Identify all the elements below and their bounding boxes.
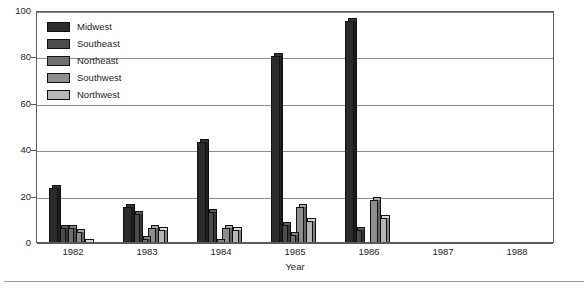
bar-side-northwest-1986 [387, 215, 390, 242]
bar-side-midwest-1984 [206, 139, 209, 242]
bottom-divider [4, 281, 584, 282]
legend-item-northwest[interactable]: Northwest [47, 87, 167, 103]
x-tick-label-1987: 1987 [432, 246, 453, 257]
y-tick-label-0: 0 [0, 238, 31, 248]
x-tick-label-1982: 1982 [62, 246, 83, 257]
x-tick-label-1986: 1986 [358, 246, 379, 257]
bar-midwest-1984[interactable] [197, 142, 205, 242]
bar-southwest-1986[interactable] [370, 200, 378, 242]
y-tick-label-20: 20 [0, 192, 31, 202]
legend-item-midwest[interactable]: Midwest [47, 19, 167, 35]
legend-label-northeast: Northeast [77, 56, 118, 66]
bar-side-midwest-1982 [58, 185, 61, 242]
bar-midwest-1985[interactable] [271, 56, 279, 242]
bar-side-midwest-1985 [280, 53, 283, 242]
bar-side-midwest-1983 [132, 204, 135, 242]
bar-side-southeast-1984 [214, 209, 217, 242]
bar-side-midwest-1986 [354, 18, 357, 242]
y-tick-label-80: 80 [0, 52, 31, 62]
x-axis: 1982198319841985198619871988 [36, 246, 554, 262]
x-axis-title: Year [36, 261, 554, 272]
legend-swatch-southwest [47, 73, 70, 83]
legend-label-southeast: Southeast [77, 39, 120, 49]
bar-side-northwest-1985 [313, 218, 316, 242]
y-tick-label-100: 100 [0, 6, 31, 16]
x-tick-label-1983: 1983 [136, 246, 157, 257]
legend-swatch-northeast [47, 56, 70, 66]
x-tick-label-1988: 1988 [506, 246, 527, 257]
bar-side-southwest-1986 [378, 197, 381, 242]
legend-label-midwest: Midwest [77, 22, 112, 32]
legend-swatch-midwest [47, 22, 70, 32]
legend-item-southwest[interactable]: Southwest [47, 70, 167, 86]
x-tick-label-1985: 1985 [284, 246, 305, 257]
gridline-0 [37, 243, 553, 244]
bar-midwest-1983[interactable] [123, 207, 131, 242]
x-tick-label-1984: 1984 [210, 246, 231, 257]
legend-swatch-southeast [47, 39, 70, 49]
bar-side-southwest-1985 [304, 204, 307, 242]
legend-swatch-northwest [47, 90, 70, 100]
bar-midwest-1982[interactable] [49, 188, 57, 242]
legend-label-northwest: Northwest [77, 90, 120, 100]
legend-item-southeast[interactable]: Southeast [47, 36, 167, 52]
y-tick-label-60: 60 [0, 99, 31, 109]
chart-legend: MidwestSoutheastNortheastSouthwestNorthw… [47, 19, 167, 104]
legend-label-southwest: Southwest [77, 73, 121, 83]
bar-chart-figure: 020406080100 MidwestSoutheastNortheastSo… [0, 0, 588, 288]
bar-side-southeast-1983 [140, 211, 143, 242]
y-tick-label-40: 40 [0, 145, 31, 155]
plot-area: MidwestSoutheastNortheastSouthwestNorthw… [36, 11, 554, 243]
bar-midwest-1986[interactable] [345, 21, 353, 242]
legend-item-northeast[interactable]: Northeast [47, 53, 167, 69]
